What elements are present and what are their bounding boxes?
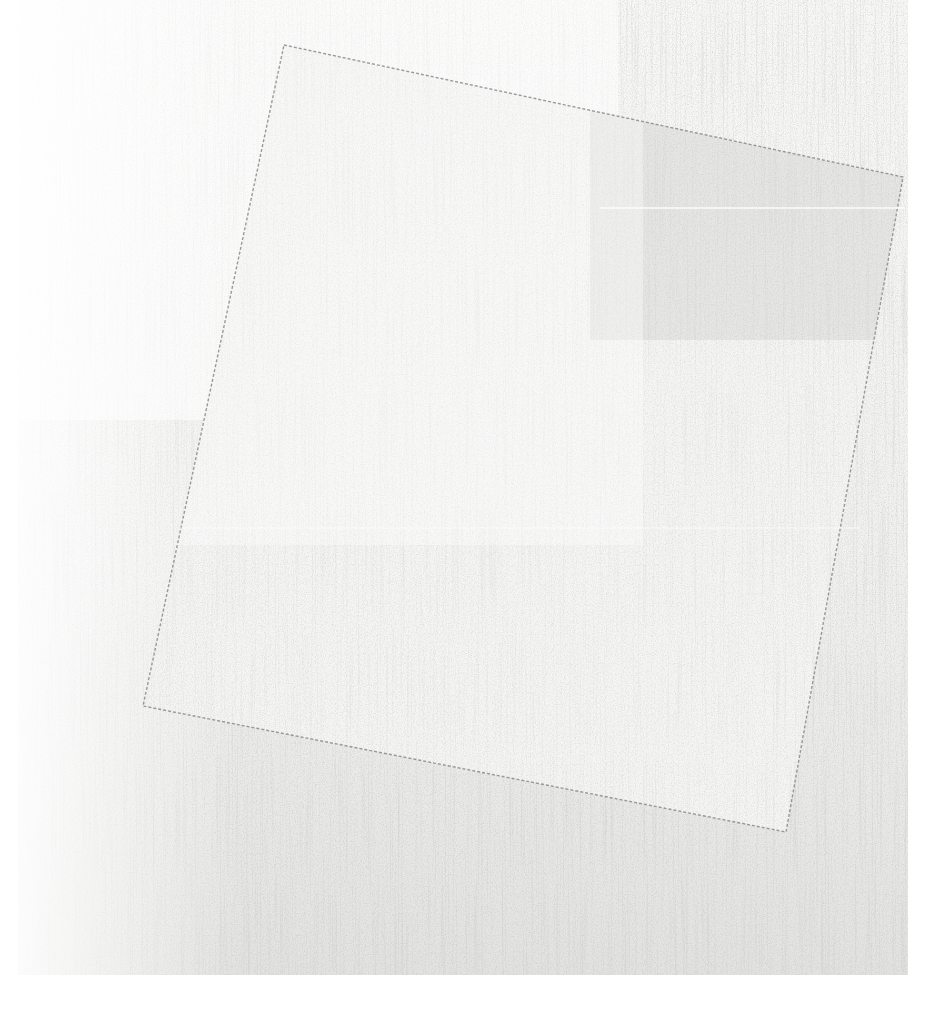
painting — [0, 0, 947, 1026]
painting-svg — [0, 0, 947, 1026]
